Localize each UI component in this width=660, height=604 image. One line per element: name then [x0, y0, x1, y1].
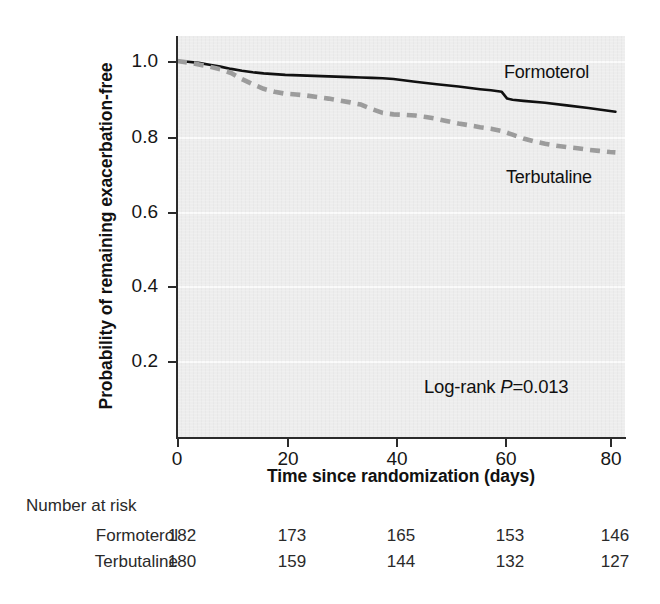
- x-tick-mark: [505, 438, 507, 447]
- x-tick-mark: [287, 438, 289, 447]
- table-row: Formoterol 182 173 165 153 146: [0, 526, 660, 552]
- risk-cell: 144: [371, 552, 431, 572]
- risk-cell: 146: [585, 526, 645, 546]
- y-tick-mark: [168, 361, 177, 363]
- risk-cell: 180: [152, 552, 212, 572]
- log-rank-prefix: Log-rank: [424, 376, 500, 397]
- log-rank-p-symbol: P: [500, 376, 512, 397]
- risk-cell: 127: [585, 552, 645, 572]
- x-tick-mark: [177, 438, 179, 447]
- series-label-terbutaline: Terbutaline: [506, 167, 592, 188]
- number-at-risk-title: Number at risk: [26, 496, 137, 516]
- y-tick-mark: [168, 212, 177, 214]
- risk-cell: 132: [480, 552, 540, 572]
- y-tick-label: 0.6: [98, 201, 158, 223]
- x-tick-mark: [396, 438, 398, 447]
- y-tick-label: 0.2: [98, 350, 158, 372]
- log-rank-p-annotation: Log-rank P=0.013: [424, 376, 568, 398]
- risk-cell: 182: [152, 526, 212, 546]
- risk-cell: 153: [480, 526, 540, 546]
- series-label-formoterol: Formoterol: [504, 62, 589, 83]
- x-axis-line: [176, 437, 626, 439]
- log-rank-p-value: =0.013: [513, 376, 569, 397]
- y-tick-mark: [168, 137, 177, 139]
- y-tick-label: 1.0: [98, 50, 158, 72]
- table-row: Terbutaline 180 159 144 132 127: [0, 552, 660, 578]
- y-axis-title: Probability of remaining exacerbation-fr…: [93, 34, 119, 438]
- x-tick-mark: [610, 438, 612, 447]
- x-axis-title: Time since randomization (days): [177, 466, 625, 487]
- y-tick-mark: [168, 61, 177, 63]
- risk-cell: 159: [262, 552, 322, 572]
- y-tick-label: 0.8: [98, 126, 158, 148]
- y-tick-label: 0.4: [98, 275, 158, 297]
- risk-cell: 173: [262, 526, 322, 546]
- y-tick-mark: [168, 286, 177, 288]
- risk-cell: 165: [371, 526, 431, 546]
- kaplan-meier-figure: Probability of remaining exacerbation-fr…: [0, 0, 660, 604]
- y-axis-line: [176, 36, 178, 439]
